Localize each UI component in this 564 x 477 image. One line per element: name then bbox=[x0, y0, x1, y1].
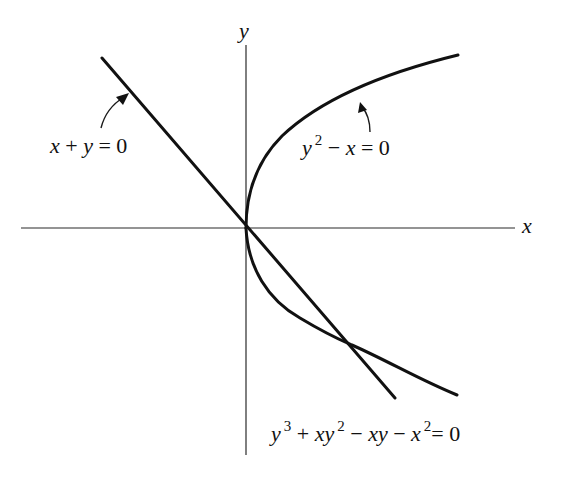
eq-rest: = 0 bbox=[93, 133, 127, 158]
eq-op: − bbox=[388, 421, 411, 446]
x-axis-label-text: x bbox=[522, 213, 532, 238]
parabola-equation-label: y2 − x = 0 bbox=[302, 137, 390, 159]
eq-var: xy bbox=[368, 421, 388, 446]
eq-op: − bbox=[322, 135, 345, 160]
eq-var: xy bbox=[315, 421, 335, 446]
eq-var: x bbox=[411, 421, 421, 446]
line-equation-label: x + y = 0 bbox=[50, 135, 127, 157]
eq-var: y bbox=[83, 133, 93, 158]
eq-op: − bbox=[345, 421, 368, 446]
arrowhead-icon bbox=[116, 93, 129, 105]
y-axis-label: y bbox=[239, 20, 249, 42]
cubic-equation-label: y3 + xy2 − xy − x2= 0 bbox=[271, 423, 460, 445]
eq-rest: = 0 bbox=[431, 421, 460, 446]
y-axis-label-text: y bbox=[239, 18, 249, 43]
eq-var: y bbox=[302, 135, 312, 160]
eq-op: + bbox=[291, 421, 314, 446]
x-axis-label: x bbox=[522, 215, 532, 237]
eq-rest: = 0 bbox=[355, 135, 389, 160]
eq-exponent: 2 bbox=[337, 418, 345, 434]
eq-var: x bbox=[50, 133, 60, 158]
cubic-curve bbox=[246, 228, 457, 395]
eq-var: x bbox=[346, 135, 356, 160]
eq-var: y bbox=[271, 421, 281, 446]
eq-op: + bbox=[60, 133, 83, 158]
diagram-canvas bbox=[0, 0, 564, 477]
